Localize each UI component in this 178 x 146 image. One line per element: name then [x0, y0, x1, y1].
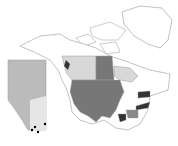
- southeast-medium: [126, 110, 138, 118]
- inset-point: [31, 129, 33, 131]
- manitoba-medium: [96, 56, 114, 80]
- inset-point: [37, 131, 39, 133]
- map-canvas: [0, 0, 178, 146]
- inset-point: [44, 123, 46, 125]
- pennsylvania-dark: [138, 91, 150, 98]
- alberta-inset-lowlands: [30, 96, 46, 130]
- greenland: [122, 6, 172, 48]
- inset-point: [34, 126, 36, 128]
